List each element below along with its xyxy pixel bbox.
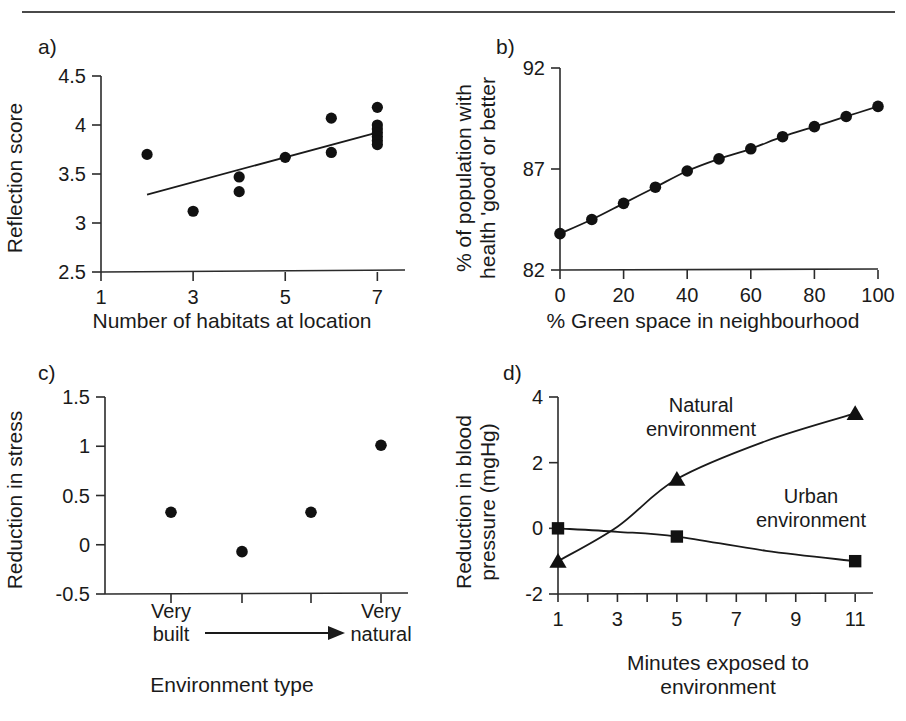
y-tick-label: -0.5 [56, 583, 90, 605]
panel-a-x-ticks [101, 272, 377, 281]
panel-d-label-urban-line1: Urban [784, 485, 838, 507]
data-point [141, 149, 152, 160]
y-tick-label: 87 [523, 158, 545, 180]
x-tick-label: 60 [740, 284, 762, 306]
y-tick-label: -2 [525, 583, 543, 605]
panel-a-x-axis-title: Number of habitats at location [93, 309, 372, 332]
panel-d-label-natural: Natural environment [646, 394, 757, 440]
panel-c-cat-right-line1: Very [361, 600, 401, 622]
panel-c-data-points [165, 439, 387, 557]
gradient-arrow-icon [205, 626, 345, 640]
panel-a-x-axis: 1357 [95, 270, 405, 308]
data-point [305, 506, 317, 518]
data-point [618, 198, 630, 210]
y-tick-label: 0.5 [62, 485, 90, 507]
x-tick-label: 7 [731, 608, 742, 630]
panel-c: c) Reduction in stress -0.500.511.5 Very… [0, 340, 453, 721]
panel-b-series-line [560, 106, 878, 233]
data-point [372, 139, 383, 150]
panel-b-x-axis: 020406080100 [554, 269, 894, 306]
panel-a-trendline [147, 132, 380, 195]
panel-a-x-tick-labels: 1357 [95, 286, 382, 308]
panel-b-chart: b) % of population with health 'good' or… [453, 18, 906, 340]
panel-c-category-left: Very built [151, 600, 191, 645]
x-tick-label: 100 [861, 284, 894, 306]
panel-a-y-axis-title: Reflection score [3, 103, 26, 254]
panel-d-x-tick-labels: 1357911 [552, 608, 865, 630]
panel-b-y-axis-title-line2: health 'good' or better [476, 77, 499, 279]
data-point-square [849, 555, 861, 567]
y-tick-label: 0 [79, 534, 90, 556]
y-tick-label: 4 [532, 386, 543, 408]
panel-b: b) % of population with health 'good' or… [453, 18, 906, 340]
panel-b-x-tick-labels: 020406080100 [554, 284, 894, 306]
panel-b-y-tick-labels: 828792 [523, 57, 545, 281]
panel-d-y-tick-labels: -2024 [525, 386, 543, 605]
data-point-triangle [847, 405, 864, 420]
panel-c-cat-left-line1: Very [151, 600, 191, 622]
panel-d-x-axis-title-line2: environment [660, 675, 776, 698]
data-point [840, 111, 852, 123]
data-point [809, 121, 821, 133]
data-point [554, 228, 566, 240]
panel-c-y-axis-title: Reduction in stress [3, 411, 26, 590]
y-tick-label: 1 [79, 435, 90, 457]
panel-d-x-ticks [558, 594, 855, 602]
data-point [326, 147, 337, 158]
panel-c-x-ticks [171, 594, 381, 603]
x-tick-label: 9 [790, 608, 801, 630]
panel-b-y-axis-title-line1: % of population with [452, 84, 475, 272]
x-tick-label: 1 [552, 608, 563, 630]
panel-d-chart: d) Reduction in blood pressure (mgHg) -2… [453, 340, 906, 721]
y-tick-label: 0 [532, 517, 543, 539]
panel-d-label-natural-line1: Natural [669, 394, 733, 416]
panel-b-y-axis: 828792 [523, 57, 560, 281]
data-point [372, 102, 383, 113]
y-tick-label: 92 [523, 57, 545, 79]
panel-c-tag: c) [38, 361, 56, 384]
panel-a-data-points [141, 102, 383, 217]
panel-c-y-ticks [96, 397, 105, 594]
panel-c-chart: c) Reduction in stress -0.500.511.5 Very… [0, 340, 453, 721]
panel-b-x-ticks [560, 270, 878, 279]
panel-d-x-axis: 1357911 [552, 593, 873, 630]
data-point-square [671, 530, 683, 542]
data-point [586, 214, 598, 226]
x-tick-label: 3 [612, 608, 623, 630]
data-point-triangle [549, 553, 566, 568]
data-point [280, 152, 291, 163]
panel-a-chart: a) Reflection score 2.533.544.5 1357 Num… [0, 18, 453, 340]
panel-a-y-tick-labels: 2.533.544.5 [58, 65, 86, 283]
data-point-triangle [668, 471, 685, 486]
data-point-square [552, 522, 564, 534]
panel-d-y-axis-title-line2: pressure (mgHg) [476, 423, 499, 581]
y-tick-label: 3 [75, 212, 86, 234]
header-rule [22, 11, 895, 13]
data-point [872, 101, 884, 113]
panel-c-y-axis: -0.500.511.5 [56, 386, 105, 605]
panel-d-tag: d) [503, 361, 522, 384]
panel-a: a) Reflection score 2.533.544.5 1357 Num… [0, 18, 453, 340]
panel-d-label-urban-line2: environment [756, 509, 867, 531]
y-tick-label: 4 [75, 114, 86, 136]
panel-c-cat-right-line2: natural [350, 623, 411, 645]
data-point [777, 131, 789, 143]
panel-a-y-ticks [92, 76, 101, 272]
panel-d-series-line-urban [558, 528, 855, 561]
panel-d-x-axis-title-line1: Minutes exposed to [627, 651, 809, 674]
panel-d: d) Reduction in blood pressure (mgHg) -2… [453, 340, 906, 721]
y-tick-label: 2.5 [58, 261, 86, 283]
panel-b-tag: b) [496, 35, 515, 58]
x-tick-label: 80 [803, 284, 825, 306]
x-tick-label: 40 [676, 284, 698, 306]
panel-d-label-urban: Urban environment [756, 485, 867, 531]
y-tick-label: 82 [523, 259, 545, 281]
x-tick-label: 0 [554, 284, 565, 306]
y-tick-label: 2 [532, 452, 543, 474]
x-tick-label: 3 [188, 286, 199, 308]
data-point [236, 546, 248, 558]
x-tick-label: 20 [612, 284, 634, 306]
data-point [234, 171, 245, 182]
y-tick-label: 4.5 [58, 65, 86, 87]
data-point [650, 181, 662, 193]
